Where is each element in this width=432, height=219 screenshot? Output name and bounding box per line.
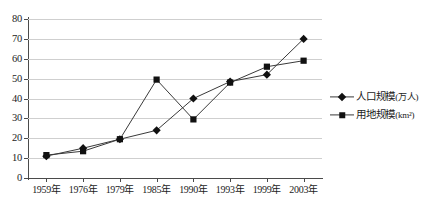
- square-marker: [301, 58, 307, 64]
- x-tick-label: 1959年: [32, 185, 61, 195]
- y-tick-label: 60: [12, 53, 22, 64]
- x-tick-label: 1999年: [253, 185, 282, 195]
- y-tick-label: 10: [12, 153, 22, 164]
- y-tick-mark: [24, 158, 28, 159]
- x-axis-line: [28, 178, 323, 179]
- x-tick-label: 1985年: [142, 185, 171, 195]
- square-marker: [154, 77, 160, 83]
- legend-item-1[interactable]: 人口规模(万人): [330, 88, 430, 106]
- square-marker: [117, 136, 123, 142]
- y-tick-label: 50: [12, 73, 22, 84]
- square-marker: [227, 80, 233, 86]
- x-tick-mark: [46, 178, 47, 182]
- y-tick-mark: [24, 19, 28, 20]
- y-tick-mark: [24, 59, 28, 60]
- x-tick-mark: [304, 178, 305, 182]
- x-tick-mark: [83, 178, 84, 182]
- chart-legend: 人口规模(万人)用地规模(km²): [330, 88, 430, 124]
- diamond-marker: [338, 93, 346, 101]
- x-tick-mark: [120, 178, 121, 182]
- series-group: [28, 19, 322, 178]
- x-tick-label: 1990年: [179, 185, 208, 195]
- square-marker: [339, 112, 345, 118]
- legend-item-2[interactable]: 用地规模(km²): [330, 106, 430, 124]
- chart-figure: 1959年1976年1979年1985年1990年1993年1999年2003年…: [0, 0, 432, 219]
- legend-label: 人口规模(万人): [356, 92, 418, 103]
- y-tick-label: 20: [12, 133, 22, 144]
- x-tick-mark: [157, 178, 158, 182]
- legend-label: 用地规模(km²): [356, 110, 414, 121]
- square-marker: [190, 116, 196, 122]
- plot-area: [28, 19, 322, 178]
- square-marker-icon: [330, 110, 354, 120]
- x-tick-label: 1993年: [216, 185, 245, 195]
- y-tick-mark: [24, 79, 28, 80]
- square-marker: [80, 148, 86, 154]
- y-tick-mark: [24, 99, 28, 100]
- x-tick-mark: [193, 178, 194, 182]
- y-tick-label: 80: [12, 14, 22, 25]
- x-tick-label: 1979年: [106, 185, 135, 195]
- x-tick-mark: [230, 178, 231, 182]
- x-tick-mark: [267, 178, 268, 182]
- square-marker: [264, 64, 270, 70]
- square-marker: [43, 152, 49, 158]
- diamond-marker-icon: [330, 92, 354, 102]
- y-tick-label: 70: [12, 33, 22, 44]
- y-tick-label: 40: [12, 93, 22, 104]
- y-tick-label: 30: [12, 113, 22, 124]
- x-tick-label: 2003年: [289, 185, 318, 195]
- y-tick-mark: [24, 39, 28, 40]
- y-tick-mark: [24, 178, 28, 179]
- y-tick-mark: [24, 118, 28, 119]
- y-tick-mark: [24, 138, 28, 139]
- series-line-1: [46, 39, 303, 156]
- x-tick-label: 1976年: [69, 185, 98, 195]
- y-tick-label: 0: [17, 173, 22, 184]
